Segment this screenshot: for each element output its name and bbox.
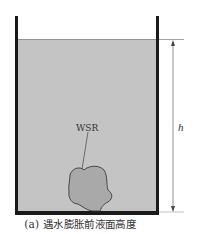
container-right-wall: [156, 16, 159, 215]
height-arrow-bottom-icon: [171, 206, 175, 212]
container-left-wall: [15, 16, 18, 215]
wsr-label: WSR: [76, 123, 98, 133]
height-arrow-top-icon: [171, 40, 175, 46]
container-bottom: [15, 211, 159, 215]
height-label: h: [178, 121, 184, 133]
container-diagram: WSR h: [0, 0, 200, 234]
figure-caption: (a) 遇水膨胀前液面高度: [0, 216, 160, 231]
